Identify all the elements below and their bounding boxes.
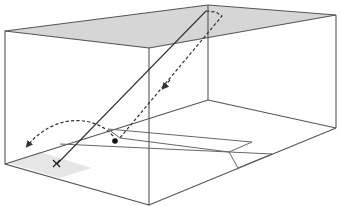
rebound-arc	[28, 121, 113, 145]
floor-shadow-patch	[8, 152, 92, 178]
floor-service-box-line-a	[229, 142, 252, 152]
floor-right-edge	[149, 128, 336, 205]
court-diagram	[0, 0, 340, 206]
bounce-point-dot	[112, 138, 118, 144]
front-face-outline	[5, 31, 149, 205]
floor-left-back-edge	[5, 100, 208, 164]
floor-service-line-2	[108, 129, 252, 142]
back-wall-bottom-edge	[208, 100, 336, 128]
floor-service-box-line-c	[229, 152, 238, 168]
floor-service-line-1	[60, 144, 272, 154]
